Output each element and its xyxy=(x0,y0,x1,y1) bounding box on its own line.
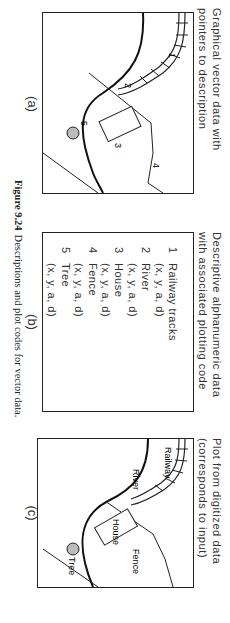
panel-b-box: 1Railway tracks (x, y, a, d) 2River (x, … xyxy=(42,232,194,412)
svg-text:River: River xyxy=(131,469,141,490)
svg-text:Fence: Fence xyxy=(131,549,141,574)
panel-a-title: Graphical vector data withpointers to de… xyxy=(196,8,224,151)
panel-c-label: (c) xyxy=(25,493,40,533)
svg-text:House: House xyxy=(111,519,121,545)
svg-text:2: 2 xyxy=(123,83,133,88)
list-item: 4Fence xyxy=(85,247,98,341)
list-item: 1Railway tracks xyxy=(166,247,179,341)
panel-a-label: (a) xyxy=(25,84,40,124)
svg-text:5: 5 xyxy=(79,121,89,126)
panel-b-label: (b) xyxy=(25,302,40,342)
list-item: 2River xyxy=(139,247,152,341)
plot-graphic-c: Railway River House Fence Tree xyxy=(38,439,193,587)
vector-graphic-a: 1 2 3 4 5 xyxy=(43,13,193,193)
figure: Graphical vector data withpointers to de… xyxy=(0,0,230,623)
list-item: 5Tree xyxy=(58,247,71,341)
descriptor-list: 1Railway tracks (x, y, a, d) 2River (x, … xyxy=(45,247,179,341)
svg-text:3: 3 xyxy=(113,143,123,148)
list-item: 3House xyxy=(112,247,125,341)
panel-b-title: Descriptive alphanumeric datawith associ… xyxy=(196,232,224,397)
svg-text:Railway: Railway xyxy=(163,447,173,479)
panel-c-title: Plot from digitized data(corresponds to … xyxy=(196,438,224,564)
svg-text:Tree: Tree xyxy=(67,557,77,575)
svg-text:4: 4 xyxy=(151,163,161,168)
figure-caption: Figure 9.24Descriptions and plot codes f… xyxy=(13,180,24,417)
svg-text:1: 1 xyxy=(167,53,177,58)
panel-c-map: Railway River House Fence Tree xyxy=(37,438,194,588)
panel-a-map: 1 2 3 4 5 xyxy=(42,12,194,194)
